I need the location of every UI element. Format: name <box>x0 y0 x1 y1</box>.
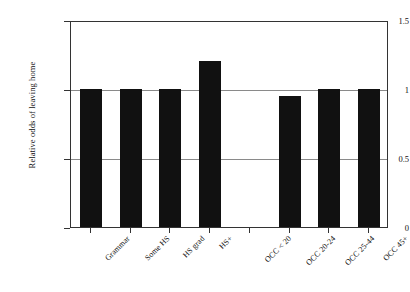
bar-slot <box>279 22 301 227</box>
x-tick-mark <box>368 228 369 233</box>
x-tick-mark <box>169 228 170 233</box>
x-tick-mark <box>90 228 91 233</box>
bar[interactable] <box>159 89 181 227</box>
x-tick-mark <box>249 228 250 233</box>
bar[interactable] <box>318 89 340 227</box>
x-tick-mark <box>289 228 290 233</box>
bar[interactable] <box>199 61 221 227</box>
bar-slot <box>199 22 221 227</box>
x-tick-label: OCC 25-44 <box>344 234 377 267</box>
x-tick-label: HS+ <box>218 234 235 251</box>
bar[interactable] <box>120 89 142 227</box>
x-tick-mark <box>209 228 210 233</box>
x-tick-label: OCC < 20 <box>263 234 293 264</box>
bar[interactable] <box>279 96 301 227</box>
x-tick-mark <box>328 228 329 233</box>
y-tick-mark <box>64 228 70 229</box>
y-axis-title: Relative odds of leaving home <box>27 25 37 205</box>
plot-area <box>70 21 388 228</box>
bar[interactable] <box>80 89 102 227</box>
x-tick-label: OCC 45+ <box>381 234 410 263</box>
bar-slot <box>120 22 142 227</box>
bar-slot <box>80 22 102 227</box>
x-tick-label: OCC 20-24 <box>304 234 337 267</box>
x-tick-label: Some HS <box>143 234 171 262</box>
bar-slot <box>159 22 181 227</box>
bar-slot <box>358 22 380 227</box>
bar-series <box>71 22 387 227</box>
x-tick-label: HS grad <box>181 234 207 260</box>
bar-slot <box>318 22 340 227</box>
bar[interactable] <box>358 89 380 227</box>
x-tick-mark <box>130 228 131 233</box>
x-tick-label: Grammar <box>103 234 132 263</box>
bar-slot <box>239 22 261 227</box>
